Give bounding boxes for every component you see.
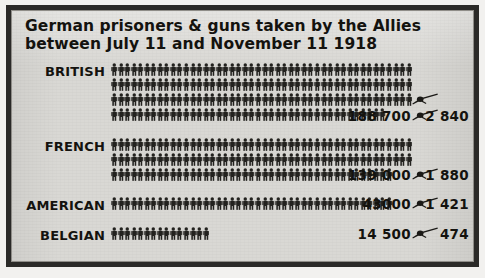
person-icon: [406, 63, 413, 76]
chart-group-british: BRITISH188 7002 840: [12, 63, 473, 124]
chart-title-line-2: between July 11 and November 11 1918: [25, 36, 445, 54]
pictogram-row: [111, 227, 209, 242]
prisoner-count-french: 139 000: [291, 167, 411, 183]
gun-count-belgian: 474: [421, 226, 469, 242]
chart-frame: German prisoners & guns taken by the All…: [6, 5, 479, 267]
pictogram-row: [111, 153, 412, 168]
gun-icon: [412, 93, 438, 105]
chart-title-line-1: German prisoners & guns taken by the All…: [25, 18, 445, 36]
infographic-root: German prisoners & guns taken by the All…: [0, 0, 485, 278]
prisoner-count-american: 43000: [291, 196, 411, 212]
person-icon: [406, 153, 413, 166]
chart-group-american: AMERICAN430001 421: [12, 197, 473, 212]
person-icon: [406, 78, 413, 91]
prisoner-count-belgian: 14 500: [291, 226, 411, 242]
group-label-british: BRITISH: [12, 64, 105, 79]
pictogram-row: [111, 138, 412, 153]
person-icon: [406, 138, 413, 151]
chart-group-french: FRENCH139 0001 880: [12, 138, 473, 184]
pictogram-row: [111, 78, 412, 93]
group-label-american: AMERICAN: [12, 198, 105, 213]
prisoner-count-british: 188 700: [291, 108, 411, 124]
gun-count-british: 2 840: [421, 108, 469, 124]
chart-group-belgian: BELGIAN14 500474: [12, 227, 473, 242]
pictogram-row: [111, 93, 412, 108]
group-label-french: FRENCH: [12, 139, 105, 154]
chart-frame-inner: German prisoners & guns taken by the All…: [11, 10, 474, 262]
group-label-belgian: BELGIAN: [12, 228, 105, 243]
gun-count-french: 1 880: [421, 167, 469, 183]
person-icon: [203, 227, 210, 240]
pictogram-row: [111, 63, 412, 78]
gun-count-american: 1 421: [421, 196, 469, 212]
chart-groups: BRITISH188 7002 840FRENCH139 0001 880AME…: [12, 63, 473, 242]
chart-title: German prisoners & guns taken by the All…: [25, 18, 445, 53]
pictogram-rows: [111, 227, 209, 242]
